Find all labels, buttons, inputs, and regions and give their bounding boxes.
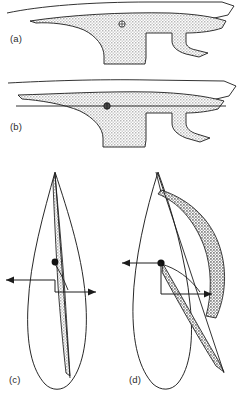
panel-label-a: (a) xyxy=(10,34,22,44)
centre-of-lateral-resistance-marker-a xyxy=(119,21,126,28)
panel-a-drawing xyxy=(0,0,240,78)
force-couple-c xyxy=(6,277,96,296)
centre-of-lateral-resistance-marker-b xyxy=(104,103,110,110)
panel-label-d: (d) xyxy=(129,375,141,385)
panel-label-b: (b) xyxy=(10,122,22,132)
panel-c: (c) xyxy=(0,168,120,418)
lateral-plane-area-a xyxy=(30,13,226,64)
sail-area-d xyxy=(158,190,225,318)
centre-of-effort-marker-c xyxy=(52,259,59,266)
panel-a: (a) xyxy=(0,0,240,78)
lateral-plane-area-b xyxy=(18,92,224,147)
panel-label-c: (c) xyxy=(9,375,21,385)
panel-b-drawing xyxy=(0,78,240,160)
arrow-left-head-c xyxy=(6,277,14,284)
arrow-right-head-c xyxy=(88,289,96,296)
figure-root: (a) (b) xyxy=(0,0,240,418)
arrow-left-head-d xyxy=(122,260,130,267)
panel-d: (d) xyxy=(120,168,240,418)
panel-b: (b) xyxy=(0,78,240,160)
